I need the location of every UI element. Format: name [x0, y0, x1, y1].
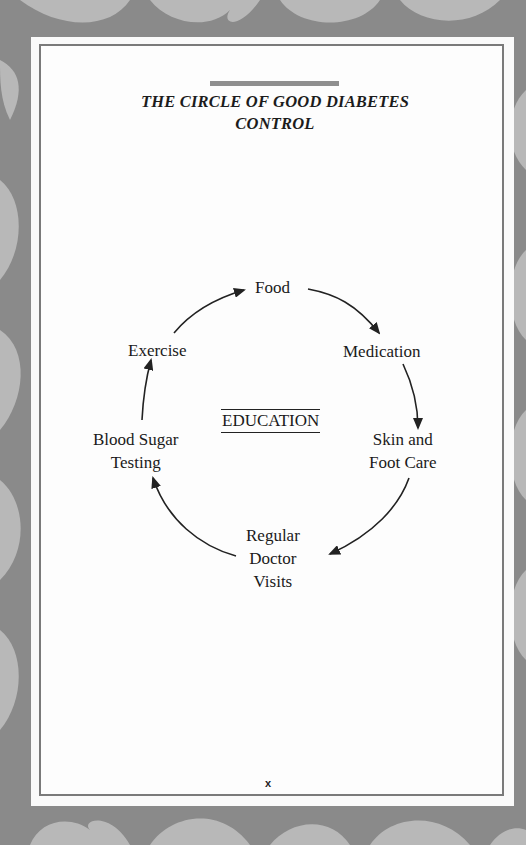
node-label: Testing	[93, 451, 178, 474]
node-label: Regular	[246, 524, 300, 547]
node-label: Skin and	[369, 428, 437, 451]
arrow-doctor-to-testing	[153, 478, 236, 556]
arrow-exercise-to-food	[174, 290, 244, 333]
arrow-skin-to-doctor	[330, 478, 409, 554]
node-label: Medication	[343, 340, 420, 363]
arrow-food-to-medication	[308, 289, 379, 333]
center-label-education: EDUCATION	[221, 409, 320, 433]
node-label: Foot Care	[369, 451, 437, 474]
node-blood-sugar-testing: Blood Sugar Testing	[93, 428, 178, 474]
arrow-medication-to-skin	[403, 364, 418, 428]
node-label: Visits	[246, 570, 300, 593]
node-medication: Medication	[343, 340, 420, 363]
node-label: Food	[255, 276, 290, 299]
node-food: Food	[255, 276, 290, 299]
node-label: Doctor	[246, 547, 300, 570]
node-label: Exercise	[128, 339, 187, 362]
node-exercise: Exercise	[128, 339, 187, 362]
node-doctor-visits: Regular Doctor Visits	[246, 524, 300, 593]
node-skin-foot-care: Skin and Foot Care	[369, 428, 437, 474]
node-label: Blood Sugar	[93, 428, 178, 451]
page-number: x	[265, 777, 271, 789]
arrow-testing-to-exercise	[142, 360, 151, 420]
